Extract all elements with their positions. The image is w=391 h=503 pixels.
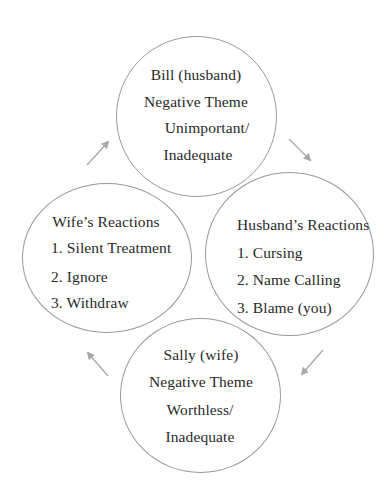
node-bill-subtitle: Negative Theme [144, 93, 248, 111]
arrow-husband-reactions-to-sally [302, 350, 323, 374]
arrow-bill-to-husband-reactions [289, 139, 310, 160]
node-bill-theme-line-1: Unimportant/ [165, 119, 250, 137]
wife-reaction-item: 2. Ignore [51, 268, 108, 286]
husband-reaction-item: 2. Name Calling [237, 271, 341, 289]
node-wife-reactions-title: Wife’s Reactions [52, 213, 159, 231]
arrow-sally-to-wife-reactions [88, 353, 108, 376]
arrow-wife-reactions-to-bill [87, 142, 108, 165]
node-bill-theme-line-2: Inadequate [164, 146, 233, 164]
node-sally-theme-line-2: Inadequate [166, 428, 235, 446]
node-sally [120, 318, 281, 473]
wife-reaction-item: 1. Silent Treatment [51, 239, 171, 257]
node-sally-theme-line-1: Worthless/ [167, 401, 234, 419]
node-bill-title: Bill (husband) [151, 66, 242, 84]
husband-reaction-item: 3. Blame (you) [237, 299, 332, 317]
negative-cycle-diagram: Bill (husband) Negative Theme Unimportan… [0, 0, 391, 503]
husband-reaction-item: 1. Cursing [237, 244, 303, 262]
node-sally-title: Sally (wife) [164, 346, 239, 364]
node-sally-subtitle: Negative Theme [149, 373, 253, 391]
node-husband-reactions-title: Husband’s Reactions [237, 216, 369, 234]
node-bill [116, 36, 277, 197]
wife-reaction-item: 3. Withdraw [51, 294, 129, 312]
